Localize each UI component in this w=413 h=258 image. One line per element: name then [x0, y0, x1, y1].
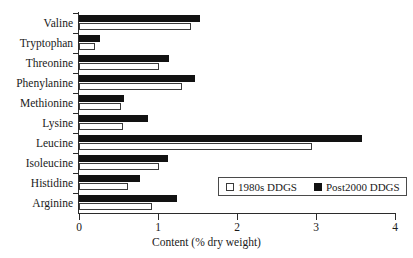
- y-axis-label: Lysine: [1, 117, 73, 129]
- bar-1980s-ddgs: [79, 63, 159, 70]
- legend-swatch-icon-post2000: [314, 183, 322, 191]
- legend-label-1980s: 1980s DDGS: [238, 181, 297, 193]
- x-axis-tick: [395, 214, 396, 220]
- x-axis-tick-label: 1: [143, 221, 173, 234]
- bar-post2000-ddgs: [79, 155, 168, 162]
- bar-post2000-ddgs: [79, 115, 148, 122]
- bar-group: [79, 13, 395, 33]
- bar-group: [79, 153, 395, 173]
- y-axis-label: Histidine: [1, 177, 73, 189]
- y-axis-label: Threonine: [1, 57, 73, 69]
- bar-post2000-ddgs: [79, 175, 140, 182]
- bar-1980s-ddgs: [79, 163, 159, 170]
- y-axis-label: Valine: [1, 17, 73, 29]
- x-axis-tick-label: 0: [64, 221, 94, 234]
- y-axis-label: Leucine: [1, 137, 73, 149]
- legend-swatch-icon-1980s: [226, 183, 234, 191]
- legend-entry-post2000-ddgs: Post2000 DDGS: [314, 181, 400, 193]
- bar-group: [79, 193, 395, 213]
- x-axis-tick-label: 2: [222, 221, 252, 234]
- bar-1980s-ddgs: [79, 203, 152, 210]
- x-axis-tick: [237, 214, 238, 220]
- y-axis-label: Tryptophan: [1, 37, 73, 49]
- bar-group: [79, 73, 395, 93]
- bar-1980s-ddgs: [79, 183, 128, 190]
- bar-group: [79, 133, 395, 153]
- y-axis-labels: ValineTryptophanThreoninePhenylanineMeth…: [0, 0, 73, 258]
- bar-post2000-ddgs: [79, 95, 124, 102]
- y-axis-label: Methionine: [1, 97, 73, 109]
- y-axis-label: Isoleucine: [1, 157, 73, 169]
- bar-1980s-ddgs: [79, 103, 121, 110]
- bar-1980s-ddgs: [79, 43, 95, 50]
- bar-post2000-ddgs: [79, 35, 100, 42]
- legend: 1980s DDGS Post2000 DDGS: [218, 177, 407, 196]
- y-axis-label: Phenylanine: [1, 77, 73, 89]
- bar-post2000-ddgs: [79, 55, 169, 62]
- legend-label-post2000: Post2000 DDGS: [326, 181, 400, 193]
- y-axis-label: Arginine: [1, 197, 73, 209]
- x-axis-tick: [79, 214, 80, 220]
- bar-group: [79, 113, 395, 133]
- bar-1980s-ddgs: [79, 83, 182, 90]
- bar-post2000-ddgs: [79, 135, 362, 142]
- x-axis-tick: [158, 214, 159, 220]
- bar-chart: ValineTryptophanThreoninePhenylanineMeth…: [0, 0, 413, 258]
- x-axis-tick-label: 3: [301, 221, 331, 234]
- legend-entry-1980s-ddgs: 1980s DDGS: [226, 181, 297, 193]
- x-axis-tick-label: 4: [380, 221, 410, 234]
- bar-1980s-ddgs: [79, 123, 123, 130]
- bar-1980s-ddgs: [79, 23, 191, 30]
- bar-post2000-ddgs: [79, 75, 195, 82]
- x-axis-tick: [316, 214, 317, 220]
- x-axis-title: Content (% dry weight): [0, 236, 413, 248]
- bar-group: [79, 53, 395, 73]
- bar-post2000-ddgs: [79, 195, 177, 202]
- bar-1980s-ddgs: [79, 143, 312, 150]
- bar-group: [79, 93, 395, 113]
- bar-group: [79, 33, 395, 53]
- bar-post2000-ddgs: [79, 15, 200, 22]
